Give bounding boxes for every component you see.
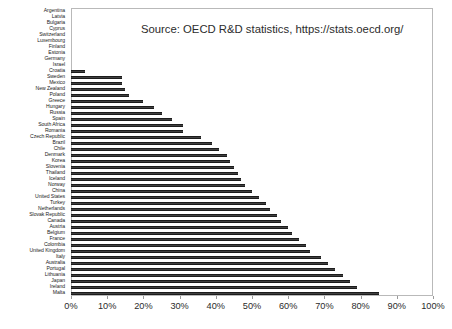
bar [71,238,299,241]
bar [71,88,125,91]
bar [71,232,292,235]
bar [71,256,321,259]
bar [71,250,310,253]
x-tick-mark [180,296,181,299]
bar [71,166,234,169]
bar [71,262,328,265]
bar [71,148,219,151]
x-tick-label: 30% [170,301,188,312]
bar [71,202,266,205]
bar [71,178,241,181]
x-tick-mark [324,296,325,299]
bar [71,244,306,247]
x-tick-label: 80% [351,301,369,312]
category-label: Malta [0,290,65,295]
bar [71,136,201,139]
bar [71,82,122,85]
bar [71,118,172,121]
x-tick-label: 10% [98,301,116,312]
bar [71,184,245,187]
bar [71,220,281,223]
bar-chart: ArgentinaLatviaBulgariaCyprusSwitzerland… [0,0,452,329]
bar [71,100,143,103]
x-tick-label: 60% [279,301,297,312]
x-tick-mark [397,296,398,299]
bar [71,172,238,175]
bar [71,112,162,115]
x-tick-mark [288,296,289,299]
x-tick-mark [71,296,72,299]
bar [71,94,129,97]
x-tick-mark [143,296,144,299]
x-tick-label: 0% [64,301,77,312]
bar [71,142,212,145]
x-tick-mark [361,296,362,299]
category-axis: ArgentinaLatviaBulgariaCyprusSwitzerland… [0,8,68,296]
bar [71,160,230,163]
bar [71,268,335,271]
bar [71,190,252,193]
bars-layer [71,8,433,296]
x-tick-label: 100% [421,301,445,312]
bar [71,154,227,157]
bar [71,76,122,79]
bar [71,208,270,211]
x-tick-mark [433,296,434,299]
x-tick-label: 40% [207,301,225,312]
x-tick-label: 50% [243,301,261,312]
bar [71,280,350,283]
bar [71,70,85,73]
bar [71,214,277,217]
x-tick-mark [252,296,253,299]
bar [71,226,288,229]
bar [71,124,183,127]
bar [71,292,379,295]
bar [71,274,343,277]
bar [71,286,357,289]
bar [71,130,183,133]
bar [71,196,259,199]
x-tick-label: 20% [134,301,152,312]
bar [71,106,154,109]
x-tick-mark [107,296,108,299]
x-tick-mark [216,296,217,299]
x-tick-label: 90% [388,301,406,312]
source-annotation: Source: OECD R&D statistics, https://sta… [141,23,403,36]
x-axis: 0%10%20%30%40%50%60%70%80%90%100% [71,296,433,322]
x-tick-label: 70% [315,301,333,312]
